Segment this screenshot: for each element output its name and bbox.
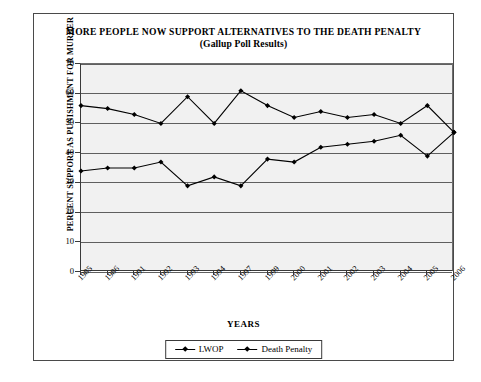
x-tick-mark bbox=[80, 271, 81, 275]
data-point-marker bbox=[318, 145, 323, 150]
x-tick-mark bbox=[426, 271, 427, 275]
data-point-marker bbox=[78, 103, 83, 108]
x-tick-mark bbox=[240, 271, 241, 275]
y-tick-label: 50 bbox=[44, 117, 74, 127]
data-point-marker bbox=[265, 103, 270, 108]
y-tick-label: 0 bbox=[44, 266, 74, 276]
x-tick-label: 1985 bbox=[76, 264, 94, 282]
x-tick-mark bbox=[267, 271, 268, 275]
series-lines bbox=[81, 64, 454, 272]
chart-title-block: MORE PEOPLE NOW SUPPORT ALTERNATIVES TO … bbox=[34, 26, 453, 50]
data-point-marker bbox=[345, 142, 350, 147]
data-point-marker bbox=[132, 112, 137, 117]
legend-marker-icon bbox=[238, 345, 258, 353]
chart-subtitle: (Gallup Poll Results) bbox=[34, 38, 453, 49]
y-tick-label: 40 bbox=[44, 147, 74, 157]
data-point-marker bbox=[372, 139, 377, 144]
x-tick-mark bbox=[187, 271, 188, 275]
data-point-marker bbox=[212, 174, 217, 179]
x-tick-mark bbox=[133, 271, 134, 275]
x-tick-mark bbox=[160, 271, 161, 275]
data-point-marker bbox=[78, 168, 83, 173]
data-point-marker bbox=[105, 106, 110, 111]
chart-title: MORE PEOPLE NOW SUPPORT ALTERNATIVES TO … bbox=[34, 26, 453, 37]
data-point-marker bbox=[132, 165, 137, 170]
x-tick-mark bbox=[213, 271, 214, 275]
legend-label-lwop: LWOP bbox=[199, 344, 224, 354]
legend-item-lwop[interactable]: LWOP bbox=[175, 344, 224, 354]
x-tick-mark bbox=[400, 271, 401, 275]
x-tick-mark bbox=[293, 271, 294, 275]
data-point-marker bbox=[105, 165, 110, 170]
legend-marker-icon bbox=[175, 345, 195, 353]
data-point-marker bbox=[318, 109, 323, 114]
x-tick-mark bbox=[346, 271, 347, 275]
data-point-marker bbox=[372, 112, 377, 117]
data-point-marker bbox=[292, 115, 297, 120]
y-tick-label: 10 bbox=[44, 236, 74, 246]
y-tick-label: 70 bbox=[44, 58, 74, 68]
x-tick-mark bbox=[320, 271, 321, 275]
legend-item-death-penalty[interactable]: Death Penalty bbox=[238, 344, 313, 354]
data-point-marker bbox=[292, 160, 297, 165]
x-tick-mark bbox=[107, 271, 108, 275]
y-tick-label: 20 bbox=[44, 206, 74, 216]
x-axis-title: YEARS bbox=[34, 319, 453, 329]
y-tick-label: 30 bbox=[44, 176, 74, 186]
y-tick-label: 60 bbox=[44, 87, 74, 97]
data-point-marker bbox=[345, 115, 350, 120]
x-tick-mark bbox=[453, 271, 454, 275]
figure-frame: MORE PEOPLE NOW SUPPORT ALTERNATIVES TO … bbox=[33, 13, 454, 361]
plot-area bbox=[80, 63, 453, 271]
legend-label-death-penalty: Death Penalty bbox=[262, 344, 313, 354]
series-line-death-penalty bbox=[81, 91, 454, 133]
chart-legend: LWOP Death Penalty bbox=[165, 340, 323, 359]
x-tick-mark bbox=[373, 271, 374, 275]
